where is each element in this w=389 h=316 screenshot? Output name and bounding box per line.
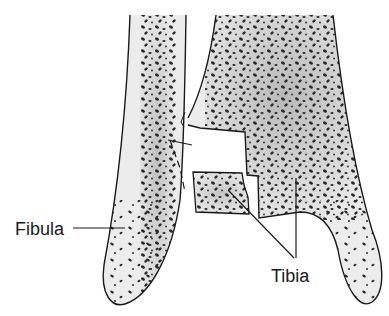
fibula-bone xyxy=(103,15,186,305)
tibia-bone xyxy=(188,15,382,304)
diagram-canvas: Fibula Tibia xyxy=(0,0,389,316)
fibula-label: Fibula xyxy=(15,220,64,238)
bone-illustration xyxy=(0,0,389,316)
tibia-label: Tibia xyxy=(271,267,309,285)
fracture-fragment xyxy=(193,172,249,214)
